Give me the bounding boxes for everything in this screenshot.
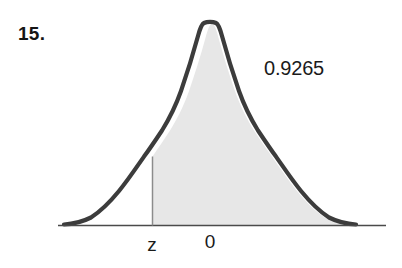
- normal-distribution-chart: [0, 0, 402, 268]
- problem-number-label: 15.: [18, 24, 45, 43]
- area-value-label: 0.9265: [264, 58, 324, 78]
- normal-curve-figure: 15. 0.9265 z 0: [0, 0, 402, 268]
- x-axis-tick-label-zero: 0: [196, 232, 224, 251]
- x-axis-tick-label-z: z: [139, 235, 165, 254]
